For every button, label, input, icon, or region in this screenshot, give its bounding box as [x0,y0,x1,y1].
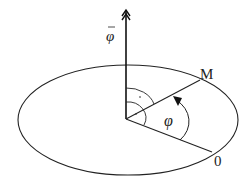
vector-label: φ [106,28,114,44]
diagram-canvas: φ φ M 0 [0,0,244,186]
angle-arrowhead-icon [173,96,182,106]
radius-om [126,80,200,119]
angle-arc [176,100,189,140]
angle-label: φ [164,112,173,130]
right-angle-dot-outer [139,96,141,98]
right-angle-dot-inner [135,113,137,115]
point-o-label: 0 [214,153,222,169]
point-m-label: M [200,66,213,82]
